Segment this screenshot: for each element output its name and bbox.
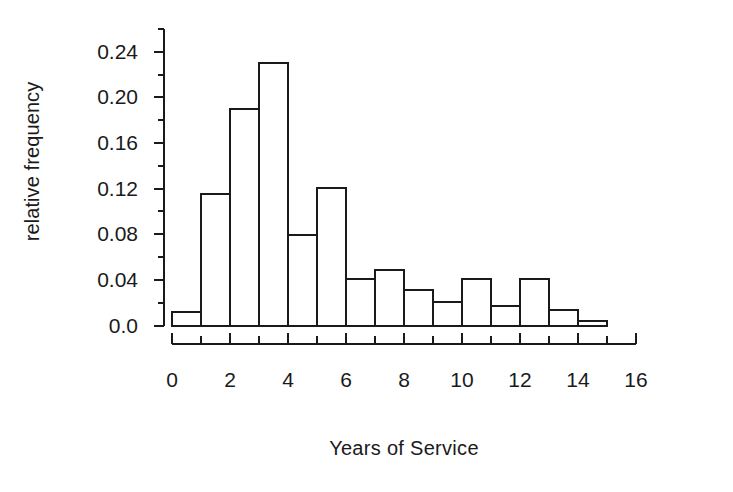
x-tick-label: 12 xyxy=(500,369,540,390)
histogram-bar xyxy=(288,235,317,325)
y-tick-label: 0.20 xyxy=(97,86,138,107)
histogram-bar xyxy=(172,312,201,326)
y-tick-label: 0.0 xyxy=(109,315,138,336)
x-tick-label: 8 xyxy=(384,369,424,390)
y-tick-label: 0.04 xyxy=(97,269,138,290)
x-tick-label: 0 xyxy=(152,369,192,390)
x-tick-label: 16 xyxy=(616,369,656,390)
histogram-bar xyxy=(578,321,607,326)
y-axis xyxy=(154,29,164,326)
y-tick-label: 0.12 xyxy=(97,178,138,199)
histogram-bar xyxy=(404,290,433,325)
y-tick-label: 0.16 xyxy=(97,132,138,153)
histogram-bar xyxy=(549,310,578,326)
histogram-bar xyxy=(520,279,549,326)
x-axis xyxy=(172,333,636,344)
histogram-bar xyxy=(317,188,346,326)
y-axis-tick-labels: 0.00.040.080.120.160.200.24 xyxy=(40,0,138,492)
histogram-bar xyxy=(259,63,288,325)
histogram-bar xyxy=(375,270,404,326)
histogram-bar xyxy=(491,306,520,325)
x-tick-label: 10 xyxy=(442,369,482,390)
histogram-bars xyxy=(172,63,607,325)
histogram-bar xyxy=(346,279,375,326)
x-axis-title: Years of Service xyxy=(172,437,636,460)
histogram-bar xyxy=(462,279,491,326)
x-tick-label: 2 xyxy=(210,369,250,390)
x-tick-label: 14 xyxy=(558,369,598,390)
histogram-bar xyxy=(201,194,230,325)
y-tick-label: 0.24 xyxy=(97,41,138,62)
histogram-figure: relative frequency 0.00.040.080.120.160.… xyxy=(0,0,733,492)
y-tick-label: 0.08 xyxy=(97,223,138,244)
x-tick-label: 6 xyxy=(326,369,366,390)
histogram-bar xyxy=(230,109,259,326)
histogram-bar xyxy=(433,302,462,326)
x-tick-label: 4 xyxy=(268,369,308,390)
